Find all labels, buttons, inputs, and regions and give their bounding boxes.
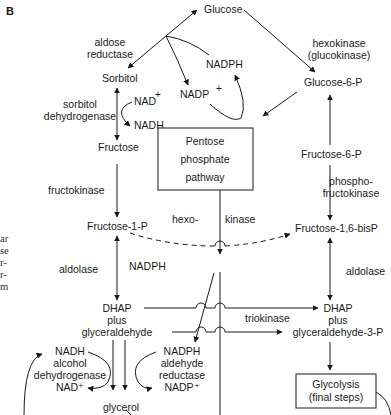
fructose-metabolism-diagram: B ar se r- r- m Glucose Sorbitol Fructos…	[0, 0, 391, 415]
svg-text:phosphate: phosphate	[180, 153, 229, 165]
aldolase-right-label: aldolase	[346, 265, 385, 277]
triokinase-label: triokinase	[245, 312, 290, 324]
svg-text:Glycolysis: Glycolysis	[312, 378, 359, 390]
svg-text:reductase: reductase	[159, 369, 205, 381]
svg-text:phospho-: phospho-	[329, 175, 373, 187]
svg-text:NADP: NADP	[180, 88, 209, 100]
aldehyde-reductase-block: NADPH aldehyde reductase NADP⁺	[159, 345, 205, 393]
svg-text:se: se	[0, 245, 9, 256]
svg-text:reductase: reductase	[87, 48, 133, 60]
svg-text:NADH: NADH	[55, 345, 85, 357]
nadph-top-label: NADPH	[206, 58, 243, 70]
svg-text:NADPH: NADPH	[164, 345, 201, 357]
svg-text:hexokinase: hexokinase	[312, 37, 365, 49]
fructose-16-bisp-label: Fructose-1,6-bisP	[295, 222, 378, 234]
svg-text:NADP⁺: NADP⁺	[164, 381, 199, 393]
svg-text:alcohol: alcohol	[53, 357, 86, 369]
svg-text:NAD: NAD	[134, 95, 157, 107]
glycolysis-box: Glycolysis (final steps)	[296, 374, 376, 408]
svg-text:NAD⁺: NAD⁺	[56, 381, 84, 393]
aldose-reductase-label: aldose reductase	[87, 36, 133, 60]
svg-text:sorbitol: sorbitol	[63, 98, 97, 110]
fructose-6-p-label: Fructose-6-P	[301, 148, 362, 160]
svg-text:+: +	[155, 89, 161, 100]
svg-text:r-: r-	[0, 269, 7, 280]
nad-sorbitol-label: NAD +	[134, 89, 161, 107]
aldolase-left-label: aldolase	[59, 263, 98, 275]
panel-label: B	[6, 5, 14, 17]
fructose-1-p-label: Fructose-1-P	[87, 220, 148, 232]
fructokinase-label: fructokinase	[48, 184, 105, 196]
svg-text:dehydrogenase: dehydrogenase	[34, 369, 107, 381]
svg-text:dehydrogenase: dehydrogenase	[44, 110, 117, 122]
svg-text:glyceraldehyde: glyceraldehyde	[82, 326, 153, 338]
svg-text:aldose: aldose	[95, 36, 126, 48]
svg-text:ar: ar	[0, 233, 9, 244]
fructose-label: Fructose	[98, 141, 139, 153]
svg-text:pathway: pathway	[185, 171, 225, 183]
svg-text:+: +	[216, 83, 222, 94]
svg-text:(final steps): (final steps)	[309, 391, 363, 403]
alcohol-dehydrogenase-block: NADH alcohol dehydrogenase NAD⁺	[34, 345, 107, 393]
svg-text:aldehyde: aldehyde	[161, 357, 204, 369]
margin-text-fragments: ar se r- r- m	[0, 233, 9, 292]
glycerol-label: glycerol	[103, 401, 139, 413]
svg-text:r-: r-	[0, 257, 7, 268]
hexokinase-label: hexokinase (glucokinase)	[308, 37, 370, 61]
svg-text:DHAP: DHAP	[323, 302, 352, 314]
dhap-left-block: DHAP plus glyceraldehyde	[82, 302, 153, 338]
kinase-label: kinase	[225, 213, 256, 225]
glucose-6-p-label: Glucose-6-P	[304, 76, 362, 88]
svg-text:Pentose: Pentose	[186, 135, 225, 147]
svg-text:plus: plus	[328, 314, 347, 326]
hexo-label: hexo-	[172, 213, 199, 225]
pentose-phosphate-pathway-box: Pentose phosphate pathway	[158, 128, 253, 190]
nadp-top-label: NADP +	[180, 83, 222, 100]
svg-text:m: m	[0, 281, 8, 292]
svg-text:glyceraldehyde-3-P: glyceraldehyde-3-P	[293, 326, 383, 338]
svg-text:fructokinase: fructokinase	[323, 187, 380, 199]
sorbitol-label: Sorbitol	[102, 72, 138, 84]
svg-text:plus: plus	[107, 314, 126, 326]
svg-text:DHAP: DHAP	[102, 302, 131, 314]
glucose-label: Glucose	[204, 3, 243, 15]
nadph-mid-label: NADPH	[129, 260, 166, 272]
svg-text:(glucokinase): (glucokinase)	[308, 49, 370, 61]
sorbitol-dehydrogenase-label: sorbitol dehydrogenase	[44, 98, 117, 122]
dhap-right-block: DHAP plus glyceraldehyde-3-P	[293, 302, 383, 338]
phosphofructokinase-label: phospho- fructokinase	[323, 175, 380, 199]
